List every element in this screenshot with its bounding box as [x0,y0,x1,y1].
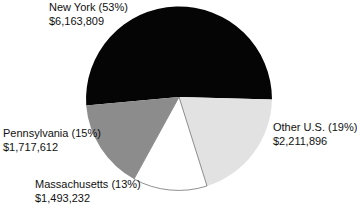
label-massachusetts-name: Massachusetts (13%) [35,177,141,191]
label-pennsylvania-name: Pennsylvania (15%) [3,126,101,140]
label-new-york-value: $6,163,809 [49,14,128,28]
label-pennsylvania-value: $1,717,612 [3,140,101,154]
label-other-us-value: $2,211,896 [273,134,357,148]
label-massachusetts: Massachusetts (13%) $1,493,232 [35,177,141,205]
label-other-us-name: Other U.S. (19%) [273,120,357,134]
label-pennsylvania: Pennsylvania (15%) $1,717,612 [3,126,101,154]
label-other-us: Other U.S. (19%) $2,211,896 [273,120,357,148]
label-new-york: New York (53%) $6,163,809 [49,0,128,28]
label-new-york-name: New York (53%) [49,0,128,14]
label-massachusetts-value: $1,493,232 [35,191,141,205]
